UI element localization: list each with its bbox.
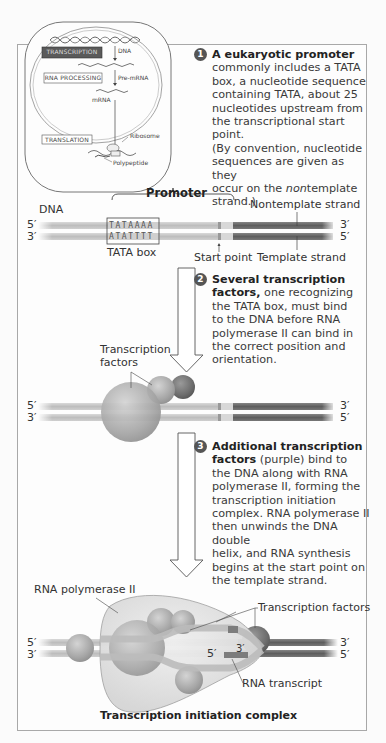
step-number-2-icon: 2	[194, 273, 207, 286]
step-1-title: A eukaryotic promoter	[212, 48, 354, 61]
three-prime-label: 3′	[27, 411, 37, 424]
five-prime-label: 5′	[340, 648, 350, 661]
start-point-label: Start point	[194, 251, 252, 264]
label-rna-processing: RNA PROCESSING	[44, 74, 102, 81]
step-1-text: 1 A eukaryotic promoter commonly include…	[212, 48, 372, 209]
transcript-three-prime: 3′	[236, 643, 245, 654]
label-transcription: TRANSCRIPTION	[42, 48, 102, 55]
dna-label: DNA	[39, 203, 63, 216]
figure-page: TRANSCRIPTION RNA PROCESSING TRANSLATION…	[0, 0, 386, 743]
template-strand-label: Template strand	[257, 251, 346, 264]
three-prime-label: 3′	[27, 230, 37, 243]
label-ribosome: Ribosome	[130, 132, 160, 139]
transcription-factors-label: Transcription factors	[100, 343, 171, 369]
tata-top-sequence: TATAAAA	[109, 221, 154, 230]
step-number-3-icon: 3	[194, 440, 207, 453]
step-2-text: 2 Several transcription factors, one rec…	[212, 273, 372, 367]
step-number-1-icon: 1	[194, 48, 207, 61]
label-translation: TRANSLATION	[42, 136, 92, 143]
five-prime-label: 5′	[340, 411, 350, 424]
tata-bottom-sequence: ATATTTT	[109, 232, 154, 241]
label-pre-mrna: Pre-mRNA	[118, 74, 148, 81]
down-arrow	[170, 433, 203, 577]
label-polypeptide: Polypeptide	[113, 159, 148, 166]
label-mrna: mRNA	[92, 96, 111, 103]
promoter-label: Promoter	[146, 186, 207, 200]
nontemplate-strand-label: Nontemplate strand	[250, 198, 360, 211]
rna-polymerase-label: RNA polymerase II	[34, 583, 135, 596]
transcription-factors-label-2: Transcription factors	[258, 601, 370, 614]
tata-box-label: TATA box	[107, 246, 156, 259]
figure-caption: Transcription initiation complex	[100, 709, 297, 722]
three-prime-label: 3′	[27, 648, 37, 661]
transcript-five-prime: 5′	[207, 647, 217, 660]
label-dna-small: DNA	[118, 47, 131, 54]
five-prime-label: 5′	[340, 230, 350, 243]
step-3-text: 3 Additional transcription factors (purp…	[212, 440, 372, 587]
tf-binding-dna	[38, 372, 336, 442]
rna-transcript-label: RNA transcript	[242, 677, 322, 690]
